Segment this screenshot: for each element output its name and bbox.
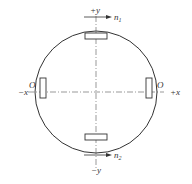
label-minus-x: −x [18,87,28,97]
label-origin-left: O [29,80,36,90]
label-n2: n2 [114,150,122,161]
sensor-top [85,33,107,39]
label-origin-right: O [157,80,164,90]
label-plus-y: +y [90,5,100,15]
arrow-n1-head [106,15,112,19]
sensor-right [146,78,152,98]
sensor-bottom [85,134,107,140]
label-minus-y: −y [91,165,101,175]
arrow-n2-head [106,153,112,157]
diagram-canvas: +y n1 −y n2 −x O O +x [0,0,192,184]
sensor-left [40,78,46,98]
label-plus-x: +x [170,87,180,97]
label-n1: n1 [114,12,122,23]
